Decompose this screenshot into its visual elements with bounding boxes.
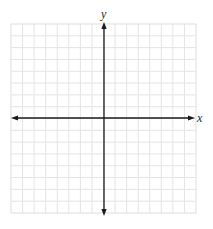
y-axis-label: y <box>100 7 107 21</box>
x-axis-label: x <box>196 111 203 125</box>
background <box>0 0 213 229</box>
coordinate-plane: x y <box>0 0 213 229</box>
